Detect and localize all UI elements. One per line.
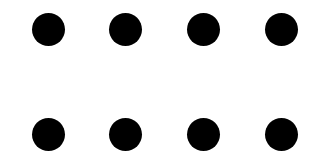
dot-r1-c3 [187,13,220,46]
dot-grid-canvas [0,0,317,155]
dot-r2-c1 [32,118,65,151]
dot-r1-c1 [32,13,65,46]
dot-r2-c2 [109,118,142,151]
dot-r2-c4 [265,118,298,151]
dot-r2-c3 [187,118,220,151]
dot-r1-c4 [265,13,298,46]
dot-r1-c2 [109,13,142,46]
